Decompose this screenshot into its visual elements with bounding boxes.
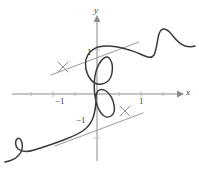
y-tick-label-negative-one: −1 xyxy=(76,116,86,125)
plot-canvas xyxy=(0,0,199,169)
main-curve-path xyxy=(5,29,195,162)
tangent-line-lower xyxy=(55,113,143,146)
y-axis-arrowhead xyxy=(94,15,101,22)
x-tick-label-negative-one: −1 xyxy=(55,97,65,106)
y-tick-label-positive-one: 1 xyxy=(87,48,92,57)
x-axis-arrowhead xyxy=(177,91,184,98)
figure-root: x y −1 1 1 −1 xyxy=(0,0,199,169)
tangency-cross-lower xyxy=(120,106,130,116)
x-axis-label: x xyxy=(186,88,190,97)
y-axis-label: y xyxy=(94,6,98,15)
x-tick-label-positive-one: 1 xyxy=(139,97,144,106)
tangent-line-upper xyxy=(51,42,139,75)
